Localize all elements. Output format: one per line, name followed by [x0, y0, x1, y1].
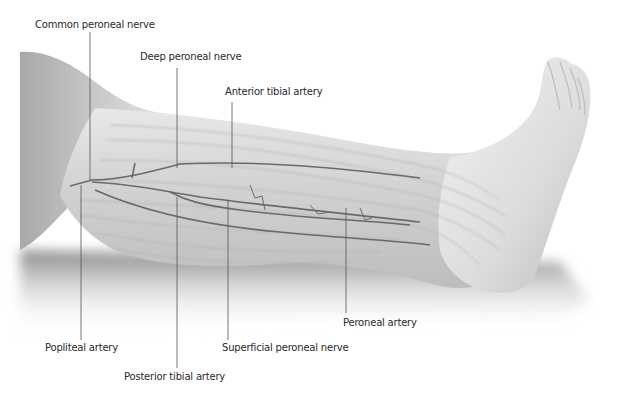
- label-popliteal-artery: Popliteal artery: [45, 342, 118, 353]
- label-anterior-tibial-artery: Anterior tibial artery: [225, 86, 322, 97]
- label-peroneal-artery: Peroneal artery: [343, 317, 417, 328]
- label-deep-peroneal-nerve: Deep peroneal nerve: [140, 51, 242, 62]
- foot: [438, 57, 590, 292]
- label-posterior-tibial-artery: Posterior tibial artery: [124, 371, 225, 382]
- label-superficial-peroneal-nerve: Superficial peroneal nerve: [222, 342, 349, 353]
- label-common-peroneal-nerve: Common peroneal nerve: [35, 19, 155, 30]
